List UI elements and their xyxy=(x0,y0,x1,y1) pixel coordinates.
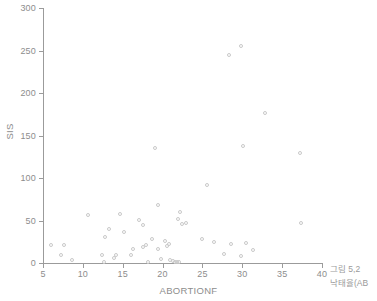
data-point xyxy=(167,242,171,246)
figure-caption: 그림 5,2 낙태율(AB xyxy=(330,262,377,290)
x-tick xyxy=(43,264,44,268)
y-tick-label: 300 xyxy=(6,3,36,13)
data-point xyxy=(222,252,226,256)
data-point xyxy=(118,212,122,216)
data-point xyxy=(177,260,181,264)
y-axis-line xyxy=(43,8,44,264)
data-point xyxy=(251,248,255,252)
data-point xyxy=(103,235,107,239)
x-axis-line xyxy=(43,263,323,264)
x-tick xyxy=(282,264,283,268)
y-tick xyxy=(39,178,43,179)
data-point xyxy=(159,257,163,261)
data-point xyxy=(244,241,248,245)
x-tick-label: 20 xyxy=(150,269,176,279)
x-tick xyxy=(83,264,84,268)
data-point xyxy=(178,210,182,214)
x-tick xyxy=(242,264,243,268)
data-point xyxy=(129,253,133,257)
y-axis-title: SIS xyxy=(4,112,15,152)
data-point xyxy=(59,253,63,257)
data-point xyxy=(263,111,267,115)
data-point xyxy=(239,254,243,258)
y-tick-label: 250 xyxy=(6,46,36,56)
data-point xyxy=(239,44,243,48)
data-point xyxy=(180,222,184,226)
y-tick-label: 200 xyxy=(6,88,36,98)
x-tick-label: 30 xyxy=(229,269,255,279)
data-point xyxy=(137,218,141,222)
x-tick xyxy=(123,264,124,268)
x-tick xyxy=(163,264,164,268)
y-tick xyxy=(39,8,43,9)
data-point xyxy=(70,258,74,262)
data-point xyxy=(102,260,106,264)
data-point xyxy=(107,227,111,231)
x-tick-label: 5 xyxy=(30,269,56,279)
y-tick xyxy=(39,93,43,94)
x-tick-label: 15 xyxy=(110,269,136,279)
data-point xyxy=(150,237,154,241)
data-point xyxy=(200,237,204,241)
data-point xyxy=(114,253,118,257)
y-tick xyxy=(39,51,43,52)
data-point xyxy=(131,247,135,251)
data-point xyxy=(156,203,160,207)
figure-caption-text: 낙태율(AB xyxy=(330,276,377,290)
x-tick xyxy=(202,264,203,268)
x-tick-label: 35 xyxy=(269,269,295,279)
x-tick xyxy=(322,264,323,268)
data-point xyxy=(298,151,302,155)
data-point xyxy=(227,53,231,57)
data-point xyxy=(299,221,303,225)
data-point xyxy=(122,230,126,234)
figure-caption-number: 그림 5,2 xyxy=(330,262,377,276)
data-point xyxy=(212,240,216,244)
y-tick-label: 50 xyxy=(6,216,36,226)
data-point xyxy=(205,183,209,187)
data-point xyxy=(176,217,180,221)
data-point xyxy=(241,144,245,148)
data-point xyxy=(141,223,145,227)
x-tick-label: 10 xyxy=(70,269,96,279)
data-point xyxy=(156,247,160,251)
data-point xyxy=(153,146,157,150)
x-axis-title: ABORTIONF xyxy=(0,285,377,296)
y-tick-label: 0 xyxy=(6,258,36,268)
data-point xyxy=(229,242,233,246)
data-point xyxy=(184,221,188,225)
scatter-plot-figure: 050100150200250300 510152025303540 SIS A… xyxy=(0,0,377,301)
data-point xyxy=(144,243,148,247)
data-point xyxy=(100,253,104,257)
y-tick xyxy=(39,136,43,137)
y-tick xyxy=(39,221,43,222)
data-point xyxy=(62,243,66,247)
data-point xyxy=(86,213,90,217)
x-tick-label: 25 xyxy=(189,269,215,279)
data-point xyxy=(49,243,53,247)
y-tick-label: 100 xyxy=(6,173,36,183)
